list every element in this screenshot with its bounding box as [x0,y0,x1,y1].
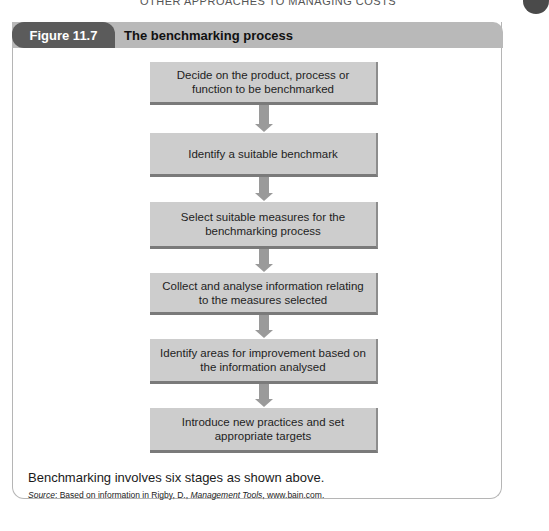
page-tab-marker [523,0,549,14]
down-arrow-icon [255,384,273,408]
step-text-2: Identify a suitable benchmark [188,147,338,161]
step-text-6: Introduce new practices and set appropri… [160,415,366,443]
down-arrow-icon [255,177,273,202]
step-box-4: Collect and analyse information relating… [150,273,378,315]
step-text-4: Collect and analyse information relating… [160,279,366,307]
step-text-1: Decide on the product, process or functi… [160,68,366,96]
source-prefix: Source [28,490,55,500]
step-text-3: Select suitable measures for the benchma… [160,210,366,238]
figure-label: Figure 11.7 [12,22,115,48]
figure-caption: Benchmarking involves six stages as show… [28,470,324,485]
down-arrow-icon [255,105,273,133]
step-box-5: Identify areas for improvement based on … [150,339,378,384]
down-arrow-icon [255,249,273,273]
step-box-3: Select suitable measures for the benchma… [150,202,378,249]
figure-source: Source: Based on information in Rigby, D… [28,490,324,500]
step-box-6: Introduce new practices and set appropri… [150,408,378,453]
source-title: Management Tools [190,490,262,500]
source-text-after: , www.bain.com. [262,490,324,500]
step-box-1: Decide on the product, process or functi… [150,62,378,105]
running-head: OTHER APPROACHES TO MANAGING COSTS [140,0,396,7]
step-box-2: Identify a suitable benchmark [150,133,378,177]
down-arrow-icon [255,315,273,339]
figure-title: The benchmarking process [124,22,293,48]
source-text-before: : Based on information in Rigby, D., [55,490,190,500]
step-text-5: Identify areas for improvement based on … [160,346,366,374]
